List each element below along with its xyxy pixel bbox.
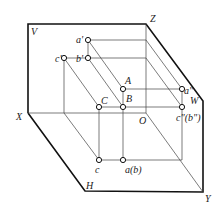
- label-B: B: [126, 93, 132, 104]
- point-A: [120, 86, 125, 91]
- projection-diagram: V Z X O W H Y a' b' c' A B C a" c"(b") c…: [0, 0, 224, 212]
- label-W: W: [190, 95, 200, 106]
- label-X: X: [15, 111, 23, 122]
- label-c-prime: c': [55, 53, 62, 64]
- point-c-prime: [61, 55, 66, 60]
- label-a-b: a(b): [125, 164, 142, 176]
- label-b-prime: b': [76, 53, 84, 64]
- point-c-b-double-prime: [179, 104, 184, 109]
- label-V: V: [31, 26, 39, 37]
- label-a-double-prime: a": [184, 85, 194, 96]
- point-a-prime: [85, 37, 90, 42]
- point-c: [96, 157, 101, 162]
- label-c-b-double-prime: c"(b"): [176, 112, 201, 124]
- label-O: O: [139, 115, 146, 126]
- plane-frame: [28, 24, 203, 192]
- label-C: C: [101, 95, 108, 106]
- label-A: A: [124, 75, 132, 86]
- label-a-prime: a': [76, 34, 84, 45]
- label-Z: Z: [150, 13, 156, 24]
- label-c: c: [95, 164, 100, 175]
- point-b-prime: [85, 55, 90, 60]
- label-Y: Y: [205, 193, 212, 204]
- label-H: H: [85, 180, 94, 191]
- point-a-b: [120, 157, 125, 162]
- point-B: [120, 104, 125, 109]
